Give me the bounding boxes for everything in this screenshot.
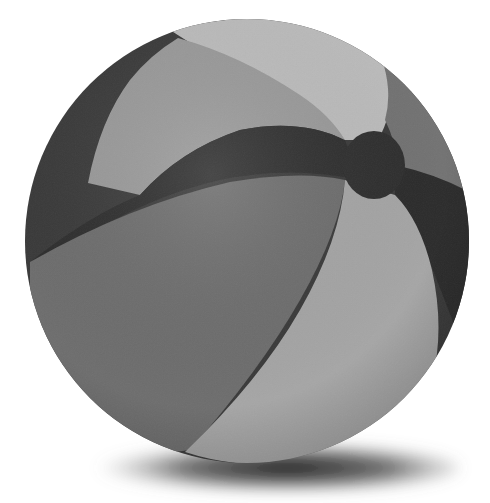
grain-texture: [0, 0, 490, 503]
beach-ball: [0, 0, 490, 503]
beach-ball-scene: [0, 0, 490, 503]
